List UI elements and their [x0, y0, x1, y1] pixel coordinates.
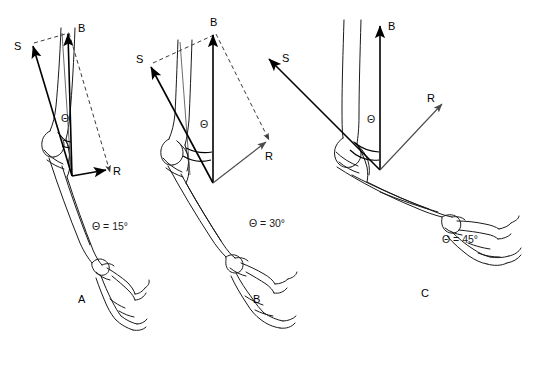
panel-c-humerus — [342, 20, 361, 144]
panel-b-label-s: S — [136, 53, 143, 65]
panel-b-vector-r — [213, 142, 266, 183]
panel-a-dash-top — [34, 33, 69, 43]
panel-b-angle-arc — [186, 148, 212, 153]
panel-b-label-r: R — [265, 150, 273, 162]
panel-b-reference-axis — [180, 42, 190, 175]
panel-a-forearm — [49, 158, 102, 265]
panel-a-vector-s — [33, 46, 72, 176]
diagram-svg: B S R Θ Θ = 15° A — [0, 0, 545, 374]
panel-a-vector-r — [72, 170, 106, 176]
panel-a-angle-arc — [64, 140, 71, 142]
panel-b-panel-label: B — [253, 293, 260, 305]
panel-b-forearm — [168, 166, 235, 258]
panel-c-angle-label: Θ = 45° — [442, 233, 478, 245]
panel-c-panel-label: C — [421, 287, 429, 299]
panel-a-label-r: R — [113, 165, 121, 177]
panel-b-elbow-joint — [161, 139, 189, 183]
panel-b-angle-arc-2 — [183, 156, 211, 161]
panel-a-angle-label: Θ = 15° — [92, 220, 128, 232]
panel-c-theta-symbol: Θ — [367, 113, 375, 125]
figure-canvas: B S R Θ Θ = 15° A — [0, 0, 545, 374]
panel-a-dash-side — [69, 33, 110, 172]
panel-c-vector-r — [380, 104, 442, 170]
panel-c-label-s: S — [282, 52, 289, 64]
panel-b-angle-label: Θ = 30° — [249, 217, 285, 229]
panel-c-forearm — [337, 167, 452, 217]
panel-b-wrist — [226, 255, 248, 276]
panel-c-label-b: B — [388, 20, 395, 32]
panel-c-label-r: R — [427, 92, 435, 104]
panel-b-theta-symbol: Θ — [200, 118, 208, 130]
panel-c: B S R Θ Θ = 45° C — [269, 20, 521, 299]
panel-b-label-b: B — [210, 16, 217, 28]
panel-b-humerus — [169, 40, 192, 145]
panel-a-label-b: B — [78, 22, 85, 34]
panel-c-wrist — [442, 215, 465, 235]
panel-a-label-s: S — [14, 40, 21, 52]
panel-a-panel-label: A — [78, 293, 86, 305]
panel-a-wrist — [92, 259, 114, 280]
panel-b-dash-top — [153, 34, 216, 63]
panel-b-dash-side — [216, 34, 269, 140]
panel-a-theta-symbol: Θ — [61, 112, 69, 124]
panel-a: B S R Θ Θ = 15° A — [14, 22, 149, 330]
panel-c-vector-s — [269, 59, 380, 170]
panel-b-hand — [231, 263, 297, 328]
